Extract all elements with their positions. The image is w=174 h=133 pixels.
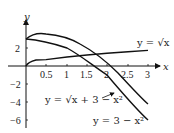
ytick-m2: −2 bbox=[10, 80, 21, 90]
curve-sqrt bbox=[26, 50, 148, 66]
x-axis-label: x bbox=[163, 62, 169, 72]
label-parabola: y = 3 − x² bbox=[93, 116, 144, 126]
ytick-m6: −6 bbox=[10, 116, 21, 126]
graph: y x 2 −2 −4 −6 0.5 1 1.5 2 2.5 3 y = √x … bbox=[0, 0, 174, 133]
xtick-3: 3 bbox=[145, 70, 150, 80]
ytick-2: 2 bbox=[15, 44, 20, 54]
y-axis-label: y bbox=[24, 12, 30, 22]
label-sqrt: y = √x bbox=[137, 38, 169, 48]
xtick-2: 2 bbox=[104, 70, 109, 80]
ytick-m4: −4 bbox=[10, 98, 21, 108]
xtick-15: 1.5 bbox=[80, 70, 93, 80]
label-sum: y = √x + 3 − x² bbox=[45, 95, 123, 105]
xtick-1: 1 bbox=[64, 70, 69, 80]
xtick-25: 2.5 bbox=[121, 70, 134, 80]
xtick-05: 0.5 bbox=[40, 70, 53, 80]
